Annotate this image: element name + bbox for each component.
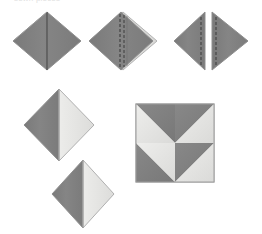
split-half-right (212, 12, 248, 70)
figure-diamond-with-stitching (89, 12, 157, 70)
figure-folded-diamond-center-seam (13, 12, 81, 70)
fabric-piecing-diagram (0, 0, 262, 234)
pinwheel-quadrant-bottom-left (136, 143, 175, 182)
diamond-half-dark (24, 89, 59, 161)
diamond-half-dark (52, 160, 83, 228)
figure-split-diamond-halves (174, 12, 248, 70)
diamond-half-light (83, 160, 114, 228)
figure-two-tone-diamond-large (24, 89, 94, 161)
split-half-left (174, 12, 205, 70)
pinwheel-quadrant-bottom-right (175, 143, 214, 182)
figure-pinwheel-block (136, 104, 214, 182)
pinwheel-quadrant-top-right (175, 104, 214, 143)
diamond-body (89, 12, 153, 70)
figure-two-tone-diamond-small (52, 160, 114, 228)
diamond-half-light (59, 89, 94, 161)
pinwheel-quadrant-top-left (136, 104, 175, 143)
